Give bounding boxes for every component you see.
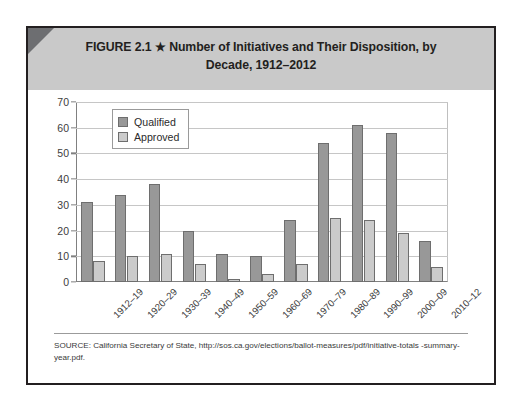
bar-qualified[interactable] xyxy=(318,143,330,282)
legend-swatch-qualified-icon xyxy=(118,117,128,127)
bar-group xyxy=(386,102,410,282)
bar-approved[interactable] xyxy=(262,274,274,282)
bar-qualified[interactable] xyxy=(81,202,93,282)
bar-approved[interactable] xyxy=(296,264,308,282)
x-axis-tick-label: 1960–69 xyxy=(280,286,314,320)
bar-approved[interactable] xyxy=(161,254,173,282)
legend-swatch-approved-icon xyxy=(118,132,128,142)
y-axis-tick-mark xyxy=(71,127,76,128)
bar-chart: 010203040506070 1912–191920–291930–39194… xyxy=(76,102,448,282)
bar-approved[interactable] xyxy=(364,220,376,282)
bar-approved[interactable] xyxy=(93,261,105,282)
x-axis-tick-label: 1980–89 xyxy=(348,286,382,320)
y-axis-tick-label: 10 xyxy=(57,250,69,262)
bar-qualified[interactable] xyxy=(115,195,127,282)
y-axis-tick-label: 50 xyxy=(57,147,69,159)
bar-qualified[interactable] xyxy=(352,125,364,282)
bar-group xyxy=(250,102,274,282)
x-axis-tick-label: 1930–39 xyxy=(178,286,212,320)
x-axis-tick-label: 2000–09 xyxy=(415,286,449,320)
y-axis-tick-mark xyxy=(71,230,76,231)
y-axis-tick-label: 20 xyxy=(57,225,69,237)
source-divider xyxy=(54,333,468,334)
figure-header-band: FIGURE 2.1 ★ Number of Initiatives and T… xyxy=(28,28,494,90)
bar-qualified[interactable] xyxy=(386,133,398,282)
chart-legend: Qualified Approved xyxy=(112,109,189,149)
bar-group xyxy=(81,102,105,282)
bar-group xyxy=(318,102,342,282)
bar-qualified[interactable] xyxy=(183,231,195,282)
source-line-1: SOURCE: California Secretary of State, h… xyxy=(54,341,419,350)
bar-group xyxy=(284,102,308,282)
bar-approved[interactable] xyxy=(431,267,443,282)
figure-title-line-1: Number of Initiatives and Their Disposit… xyxy=(169,40,436,54)
figure-number-label: FIGURE 2.1 xyxy=(86,40,152,54)
bar-approved[interactable] xyxy=(195,264,207,282)
bar-group xyxy=(419,102,443,282)
star-icon: ★ xyxy=(155,40,166,54)
chart-region: 010203040506070 1912–191920–291930–39194… xyxy=(28,90,494,333)
y-axis-tick-label: 70 xyxy=(57,96,69,108)
bar-qualified[interactable] xyxy=(284,220,296,282)
x-axis-tick-label: 2010–12 xyxy=(449,286,483,320)
bar-qualified[interactable] xyxy=(149,184,161,282)
legend-item-approved[interactable]: Approved xyxy=(118,129,179,144)
y-axis-tick-label: 30 xyxy=(57,199,69,211)
source-note: SOURCE: California Secretary of State, h… xyxy=(54,340,472,364)
y-axis-tick-mark xyxy=(71,204,76,205)
y-axis-tick-mark xyxy=(71,101,76,102)
y-axis-tick-mark xyxy=(71,153,76,154)
bar-approved[interactable] xyxy=(228,279,240,282)
legend-item-qualified[interactable]: Qualified xyxy=(118,114,179,129)
figure-card: FIGURE 2.1 ★ Number of Initiatives and T… xyxy=(26,26,496,385)
y-axis-tick-label: 40 xyxy=(57,173,69,185)
x-axis-tick-label: 1970–79 xyxy=(314,286,348,320)
y-axis-tick-label: 0 xyxy=(63,276,69,288)
legend-label-qualified: Qualified xyxy=(134,116,176,128)
x-axis-tick-label: 1950–59 xyxy=(246,286,280,320)
bar-approved[interactable] xyxy=(127,256,139,282)
y-axis-tick-mark xyxy=(71,256,76,257)
bar-approved[interactable] xyxy=(398,233,410,282)
bar-qualified[interactable] xyxy=(216,254,228,282)
bar-group xyxy=(216,102,240,282)
bar-qualified[interactable] xyxy=(250,256,262,282)
y-axis-tick-label: 60 xyxy=(57,122,69,134)
bar-approved[interactable] xyxy=(330,218,342,282)
x-axis-tick-label: 1912–19 xyxy=(111,286,145,320)
bar-group xyxy=(352,102,376,282)
x-axis-tick-label: 1920–29 xyxy=(145,286,179,320)
legend-label-approved: Approved xyxy=(134,131,179,143)
y-axis-tick-mark xyxy=(71,281,76,282)
x-axis-tick-label: 1940–49 xyxy=(212,286,246,320)
figure-title: FIGURE 2.1 ★ Number of Initiatives and T… xyxy=(28,38,494,74)
x-axis-tick-label: 1990–99 xyxy=(381,286,415,320)
y-axis-tick-mark xyxy=(71,178,76,179)
bar-qualified[interactable] xyxy=(419,241,431,282)
figure-title-line-2: Decade, 1912–2012 xyxy=(206,58,316,72)
